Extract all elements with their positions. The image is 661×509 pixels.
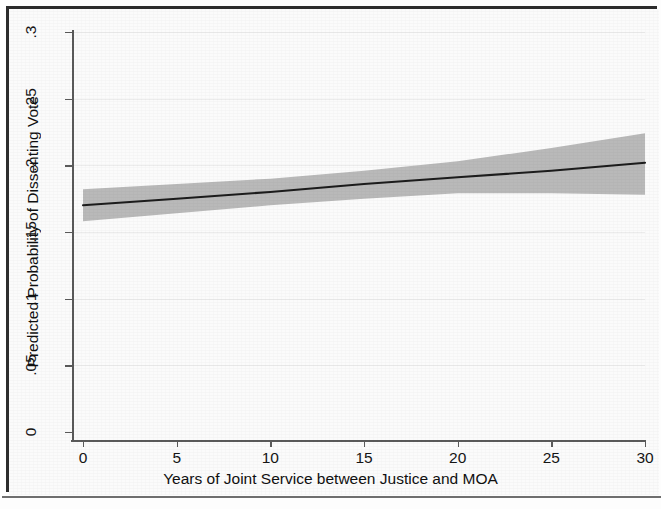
y-axis-title-text: Predicted Probability of Dissenting Vote bbox=[24, 96, 42, 367]
x-tick-mark bbox=[270, 440, 271, 447]
x-axis-title-text: Years of Joint Service between Justice a… bbox=[163, 470, 498, 487]
y-tick-mark bbox=[65, 299, 72, 300]
x-tick-label: 0 bbox=[79, 449, 88, 467]
y-tick-mark bbox=[65, 32, 72, 33]
x-tick-label: 20 bbox=[449, 449, 466, 467]
y-tick-mark bbox=[65, 432, 72, 433]
chart-plot-area bbox=[0, 0, 661, 509]
y-axis-title: Predicted Probability of Dissenting Vote bbox=[22, 32, 44, 432]
figure-container: 0.05.1.15.2.25.3 051015202530 Predicted … bbox=[0, 0, 661, 509]
x-tick-label: 10 bbox=[262, 449, 279, 467]
x-tick-mark bbox=[83, 440, 84, 447]
x-tick-mark bbox=[551, 440, 552, 447]
y-tick-mark bbox=[65, 365, 72, 366]
x-axis-title: Years of Joint Service between Justice a… bbox=[0, 470, 661, 488]
y-tick-mark bbox=[65, 99, 72, 100]
y-tick-mark bbox=[65, 165, 72, 166]
x-tick-label: 15 bbox=[355, 449, 372, 467]
y-tick-mark bbox=[65, 232, 72, 233]
x-tick-mark bbox=[177, 440, 178, 447]
confidence-interval-band bbox=[83, 133, 645, 221]
x-tick-label: 5 bbox=[172, 449, 181, 467]
y-axis-line bbox=[72, 30, 74, 442]
x-axis-line bbox=[71, 440, 645, 442]
x-tick-label: 25 bbox=[543, 449, 560, 467]
x-tick-mark bbox=[645, 440, 646, 447]
x-tick-mark bbox=[458, 440, 459, 447]
x-tick-label: 30 bbox=[636, 449, 653, 467]
x-tick-mark bbox=[364, 440, 365, 447]
